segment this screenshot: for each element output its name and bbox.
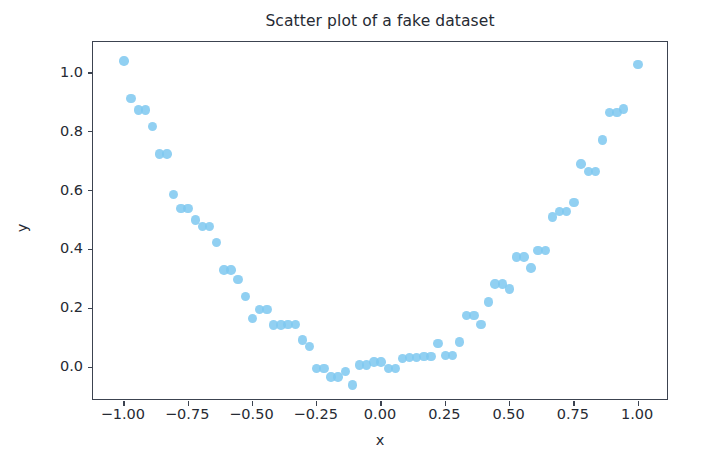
- scatter-point: [633, 60, 642, 69]
- scatter-point: [598, 135, 607, 144]
- y-tick-label: 0.2: [43, 299, 83, 315]
- scatter-point: [448, 351, 457, 360]
- y-tick-label: 0.0: [43, 358, 83, 374]
- scatter-point: [505, 284, 514, 293]
- y-tick-mark: [88, 308, 93, 309]
- scatter-point: [455, 337, 464, 346]
- scatter-point: [141, 105, 150, 114]
- scatter-point: [469, 311, 478, 320]
- scatter-point: [391, 364, 400, 373]
- scatter-point: [212, 238, 221, 247]
- scatter-point: [291, 320, 300, 329]
- scatter-point: [305, 342, 314, 351]
- scatter-point: [233, 275, 242, 284]
- scatter-point: [476, 320, 485, 329]
- y-tick-label: 0.4: [43, 240, 83, 256]
- y-axis-label: y: [14, 224, 30, 233]
- scatter-point: [426, 352, 435, 361]
- y-tick-label: 0.8: [43, 123, 83, 139]
- scatter-point: [541, 246, 550, 255]
- scatter-point: [119, 56, 128, 65]
- x-tick-label: −0.25: [293, 406, 337, 422]
- plot-area: [92, 41, 668, 400]
- x-tick-label: 1.00: [621, 406, 653, 422]
- y-tick-mark: [88, 367, 93, 368]
- scatter-point: [226, 265, 235, 274]
- scatter-plot-figure: Scatter plot of a fake dataset −1.00−0.7…: [0, 0, 706, 468]
- x-tick-label: 0.00: [364, 406, 396, 422]
- scatter-point: [484, 297, 493, 306]
- scatter-point: [162, 149, 171, 158]
- y-tick-label: 0.6: [43, 182, 83, 198]
- scatter-point: [619, 104, 628, 113]
- data-points-layer: [93, 42, 667, 399]
- y-tick-mark: [88, 249, 93, 250]
- scatter-point: [241, 292, 250, 301]
- scatter-point: [183, 204, 192, 213]
- x-tick-label: −0.75: [165, 406, 209, 422]
- scatter-point: [148, 122, 157, 131]
- x-axis-label: x: [92, 432, 668, 448]
- chart-title: Scatter plot of a fake dataset: [92, 12, 668, 30]
- scatter-point: [348, 380, 357, 389]
- y-tick-mark: [88, 190, 93, 191]
- y-tick-mark: [88, 131, 93, 132]
- scatter-point: [562, 207, 571, 216]
- y-tick-label: 1.0: [43, 64, 83, 80]
- scatter-point: [169, 190, 178, 199]
- y-tick-mark: [88, 72, 93, 73]
- x-tick-label: 0.75: [557, 406, 589, 422]
- scatter-point: [262, 305, 271, 314]
- scatter-point: [519, 252, 528, 261]
- x-tick-label: −1.00: [101, 406, 145, 422]
- scatter-point: [248, 314, 257, 323]
- scatter-point: [433, 339, 442, 348]
- scatter-point: [591, 167, 600, 176]
- x-tick-label: 0.25: [428, 406, 460, 422]
- scatter-point: [126, 94, 135, 103]
- scatter-point: [205, 222, 214, 231]
- scatter-point: [341, 367, 350, 376]
- x-tick-label: −0.50: [229, 406, 273, 422]
- scatter-point: [526, 263, 535, 272]
- scatter-point: [569, 198, 578, 207]
- x-tick-label: 0.50: [492, 406, 524, 422]
